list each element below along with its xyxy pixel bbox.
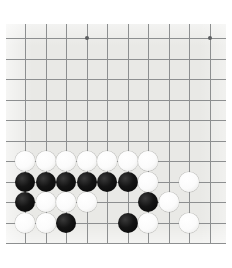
white-stone[interactable] — [77, 151, 97, 171]
black-stone[interactable] — [118, 172, 138, 192]
black-stone[interactable] — [56, 172, 76, 192]
white-stone[interactable] — [15, 151, 35, 171]
go-board[interactable] — [6, 24, 226, 244]
white-stone[interactable] — [138, 151, 158, 171]
white-stone[interactable] — [159, 192, 179, 212]
white-stone[interactable] — [179, 172, 199, 192]
go-board-screenshot — [0, 0, 232, 268]
white-stone[interactable] — [97, 151, 117, 171]
black-stone[interactable] — [77, 172, 97, 192]
white-stone[interactable] — [138, 213, 158, 233]
black-stone[interactable] — [56, 213, 76, 233]
white-stone[interactable] — [36, 151, 56, 171]
white-stone[interactable] — [179, 213, 199, 233]
black-stone[interactable] — [15, 192, 35, 212]
black-stone[interactable] — [36, 172, 56, 192]
white-stone[interactable] — [56, 192, 76, 212]
black-stone[interactable] — [15, 172, 35, 192]
white-stone[interactable] — [36, 213, 56, 233]
white-stone[interactable] — [15, 213, 35, 233]
white-stone[interactable] — [77, 192, 97, 212]
white-stone[interactable] — [56, 151, 76, 171]
white-stone[interactable] — [138, 172, 158, 192]
black-stone[interactable] — [118, 213, 138, 233]
stone-layer[interactable] — [6, 24, 226, 244]
white-stone[interactable] — [36, 192, 56, 212]
black-stone[interactable] — [138, 192, 158, 212]
white-stone[interactable] — [118, 151, 138, 171]
black-stone[interactable] — [97, 172, 117, 192]
